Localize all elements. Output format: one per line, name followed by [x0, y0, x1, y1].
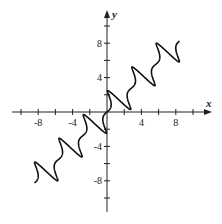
- x-tick-label: 8: [173, 117, 178, 128]
- y-axis-arrow-icon: [104, 10, 110, 18]
- y-tick-label: -4: [94, 141, 102, 152]
- x-axis-label: x: [205, 97, 212, 109]
- y-tick-label: 4: [97, 72, 102, 83]
- x-tick-label: -4: [68, 117, 76, 128]
- axes: [12, 10, 212, 212]
- x-axis-arrow-icon: [204, 109, 212, 115]
- x-tick-label: 4: [139, 117, 144, 128]
- y-tick-label: -8: [94, 175, 102, 186]
- y-axis-label: y: [110, 8, 117, 20]
- plot-area: -8-44884-4-8 x y: [0, 0, 222, 224]
- y-tick-label: 8: [97, 38, 102, 49]
- x-tick-label: -8: [34, 117, 42, 128]
